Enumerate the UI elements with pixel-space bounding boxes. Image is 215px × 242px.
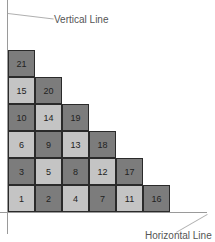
grid-cell: 15 bbox=[8, 77, 35, 104]
horizontal-line-label: Horizontal Line bbox=[145, 230, 212, 241]
grid-cell: 11 bbox=[116, 185, 143, 212]
grid-cell: 20 bbox=[35, 77, 62, 104]
grid-cell: 9 bbox=[35, 131, 62, 158]
grid-cell: 4 bbox=[62, 185, 89, 212]
vertical-label-leader bbox=[8, 13, 54, 20]
grid-cell: 1 bbox=[8, 185, 35, 212]
grid-cell: 2 bbox=[35, 185, 62, 212]
grid-cell: 14 bbox=[35, 104, 62, 131]
grid-cell: 6 bbox=[8, 131, 35, 158]
grid-cell: 3 bbox=[8, 158, 35, 185]
grid-cell: 13 bbox=[62, 131, 89, 158]
grid-cell: 16 bbox=[143, 185, 170, 212]
grid-cell: 17 bbox=[116, 158, 143, 185]
grid-cell: 5 bbox=[35, 158, 62, 185]
grid-cell: 12 bbox=[89, 158, 116, 185]
horizontal-axis-line bbox=[0, 212, 207, 213]
grid-cell: 7 bbox=[89, 185, 116, 212]
grid-cell: 18 bbox=[89, 131, 116, 158]
grid-cell: 21 bbox=[8, 50, 35, 77]
grid-cell: 19 bbox=[62, 104, 89, 131]
vertical-line-label: Vertical Line bbox=[54, 14, 108, 25]
grid-cell: 10 bbox=[8, 104, 35, 131]
grid-cell: 8 bbox=[62, 158, 89, 185]
